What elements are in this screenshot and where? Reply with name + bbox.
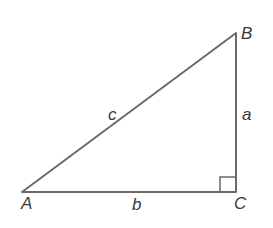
triangle-abc xyxy=(22,33,236,192)
right-angle-marker xyxy=(220,177,236,192)
triangle-svg: A B C a b c xyxy=(0,0,273,228)
vertex-label-a: A xyxy=(20,194,32,213)
side-label-b: b xyxy=(132,195,141,214)
vertex-label-b: B xyxy=(241,24,252,43)
triangle-diagram: A B C a b c xyxy=(0,0,273,228)
side-label-c: c xyxy=(108,105,117,124)
vertex-label-c: C xyxy=(234,194,247,213)
side-label-a: a xyxy=(242,105,251,124)
